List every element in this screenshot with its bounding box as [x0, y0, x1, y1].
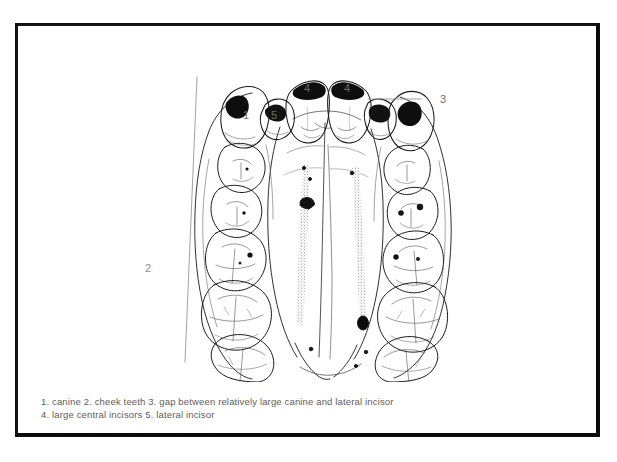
tooth-lateral-incisor-right [364, 99, 396, 139]
tooth-right-premolar-2 [387, 187, 438, 239]
cheek-teeth-right [375, 145, 447, 382]
plate-frame: 1 2 3 4 4 5 1. canine 2. cheek teeth 3. … [15, 23, 600, 437]
callout-4-central-incisor-right: 4 [344, 82, 351, 94]
tooth-canine-right [388, 91, 434, 150]
caption-line-2: 4. large central incisors 5. lateral inc… [41, 408, 561, 421]
tooth-right-molar-3 [375, 337, 438, 382]
tooth-left-premolar-1 [218, 143, 265, 192]
figure-plate-page: 1 2 3 4 4 5 1. canine 2. cheek teeth 3. … [0, 0, 617, 462]
callout-4-central-incisor-left: 4 [304, 82, 311, 94]
tooth-right-premolar-1 [384, 145, 430, 194]
caption-line-1: 1. canine 2. cheek teeth 3. gap between … [41, 395, 561, 408]
tooth-left-molar-1 [205, 229, 266, 291]
callout-2-cheek-teeth: 2 [145, 262, 152, 274]
palate-shading-bands [279, 157, 379, 368]
plate-content: 1 2 3 4 4 5 1. canine 2. cheek teeth 3. … [19, 27, 594, 431]
callout-5-lateral-incisor: 5 [271, 109, 278, 121]
dental-arcade-figure: 1 2 3 4 4 5 [19, 27, 597, 382]
callout-1-canine: 1 [243, 109, 250, 121]
tooth-right-molar-1 [383, 231, 444, 293]
tooth-left-molar-3 [211, 335, 274, 382]
callout-3-gap: 3 [440, 93, 447, 105]
figure-ink-layer [185, 77, 451, 382]
anterior-teeth [221, 81, 434, 151]
cheek-teeth-left [201, 143, 273, 382]
figure-caption: 1. canine 2. cheek teeth 3. gap between … [41, 395, 561, 421]
dental-arcade-drawing [19, 27, 597, 382]
tooth-left-premolar-2 [211, 185, 262, 237]
